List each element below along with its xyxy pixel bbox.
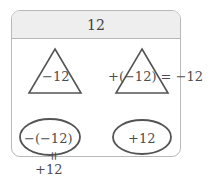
card-header-value: 12 [87, 17, 105, 33]
result-below-label: +12 [35, 163, 62, 176]
card-header: 12 [12, 11, 180, 39]
diagram-canvas: 12 −12 +(−12) = −12 −(−12) +12 = +12 [0, 0, 221, 185]
triangle-right-expression: +(−12) = −12 [108, 70, 203, 83]
equals-connector: = [48, 151, 60, 161]
oval-right-label: +12 [128, 132, 155, 145]
triangle-left-label: −12 [42, 70, 69, 83]
oval-left-label: −(−12) [24, 132, 72, 145]
